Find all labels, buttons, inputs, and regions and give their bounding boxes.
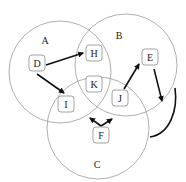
node-label: D	[33, 58, 40, 69]
node-f: F	[93, 127, 109, 143]
set-label-c: C	[94, 159, 101, 170]
node-label: I	[64, 99, 67, 110]
node-j: J	[112, 90, 128, 106]
node-label: K	[90, 79, 98, 90]
venn-diagram: DHEKIJF ABC	[0, 0, 186, 182]
node-k: K	[86, 76, 102, 92]
edge-d-i	[37, 74, 64, 93]
node-h: H	[86, 45, 102, 61]
node-e: E	[142, 49, 158, 65]
node-d: D	[29, 55, 45, 71]
edge-f-right	[101, 119, 112, 126]
set-label-a: A	[41, 35, 49, 46]
node-i: I	[58, 96, 74, 112]
edge-curve-right	[150, 88, 176, 137]
node-label: H	[90, 48, 97, 59]
node-label: F	[98, 130, 104, 141]
edge-j-e	[124, 64, 139, 89]
node-label: J	[118, 93, 122, 104]
set-label-b: B	[116, 30, 123, 41]
edge-d-h	[46, 53, 83, 65]
edge-f-left	[90, 118, 101, 126]
node-label: E	[147, 52, 153, 63]
edge-e-out	[154, 69, 162, 101]
